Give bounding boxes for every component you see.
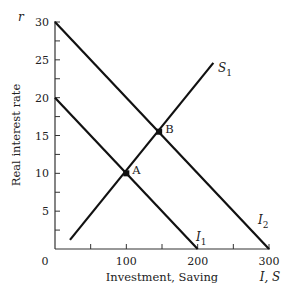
- y-tick-label: 5: [42, 205, 49, 218]
- chart-canvas: 510152025300100200300 I1I2S1 AB r Real i…: [0, 0, 296, 300]
- y-axis-symbol: r: [18, 10, 25, 24]
- curve-s1: [70, 63, 213, 240]
- x-tick-label: 100: [116, 255, 137, 268]
- equilibrium-points: AB: [123, 122, 173, 178]
- y-tick-label: 10: [35, 167, 49, 180]
- curve-label-s1: S1: [218, 61, 232, 78]
- y-axis-title: Real interest rate: [9, 84, 23, 187]
- point-label-a: A: [131, 163, 141, 177]
- y-tick-label: 25: [35, 54, 49, 67]
- y-tick-label: 20: [35, 92, 49, 105]
- point-a: [123, 170, 129, 176]
- point-b: [156, 129, 162, 135]
- ticks: 510152025300100200300: [35, 16, 280, 268]
- point-label-b: B: [165, 122, 173, 136]
- y-tick-label: 30: [35, 16, 49, 29]
- investment-saving-chart: 510152025300100200300 I1I2S1 AB r Real i…: [0, 0, 296, 300]
- y-tick-label: 15: [35, 130, 49, 143]
- curve-label-i2: I2: [257, 213, 268, 230]
- curve-i2: [55, 22, 269, 249]
- x-axis-title: Investment, Saving: [106, 270, 219, 284]
- x-tick-label: 300: [259, 255, 280, 268]
- x-tick-label: 200: [187, 255, 208, 268]
- curve-label-i1: I1: [195, 230, 206, 247]
- series-lines: I1I2S1: [55, 22, 269, 249]
- x-axis-symbol: I, S: [259, 270, 281, 284]
- x-tick-label: 0: [42, 255, 49, 268]
